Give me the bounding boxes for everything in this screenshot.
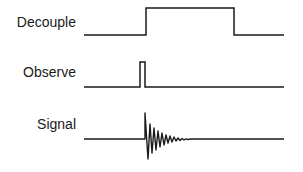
signal-waveform: [84, 113, 284, 159]
timing-diagram: [0, 0, 303, 172]
decouple-waveform: [84, 8, 284, 35]
observe-waveform: [84, 62, 284, 87]
